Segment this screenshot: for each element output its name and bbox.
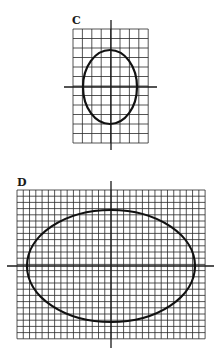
axes xyxy=(64,20,157,150)
ellipse-figure xyxy=(0,0,221,364)
panel-c-graph xyxy=(64,20,157,150)
panel-d-label: D xyxy=(17,177,27,188)
panel-d-graph xyxy=(7,181,214,348)
panel-c-label: C xyxy=(72,15,81,26)
